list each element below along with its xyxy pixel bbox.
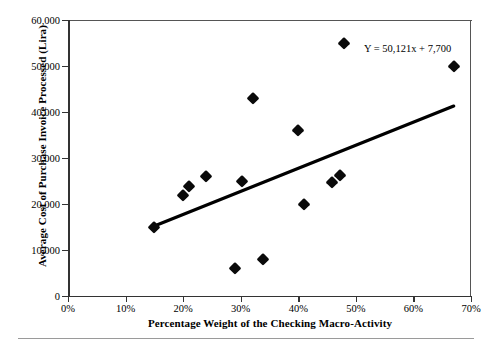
y-axis-tick-label: 50,000	[4, 61, 60, 72]
x-axis-tick	[183, 296, 184, 302]
y-axis-tick	[62, 250, 68, 251]
data-point-marker	[292, 124, 304, 136]
x-axis-tick	[298, 296, 299, 302]
y-axis-line	[68, 20, 70, 297]
y-axis-tick	[62, 158, 68, 159]
y-axis-tick	[62, 66, 68, 67]
x-axis-tick-label: 50%	[334, 303, 378, 314]
y-axis-tick	[62, 204, 68, 205]
x-axis-tick	[126, 296, 127, 302]
data-point-marker	[448, 60, 460, 72]
x-axis-tick-label: 0%	[46, 303, 90, 314]
plot-frame-top-border	[68, 20, 472, 21]
x-axis-tick-label: 70%	[449, 303, 493, 314]
x-axis-tick	[471, 296, 472, 302]
trendline-equation-label: Y = 50,121x + 7,700	[364, 43, 451, 54]
y-axis-tick-label: 20,000	[4, 199, 60, 210]
y-axis-tick-label: 30,000	[4, 153, 60, 164]
y-axis-tick	[62, 112, 68, 113]
x-axis-tick-label: 10%	[104, 303, 148, 314]
data-point-marker	[338, 37, 350, 49]
x-axis-line	[68, 296, 472, 298]
data-point-marker	[229, 262, 241, 274]
data-point-marker	[236, 175, 248, 187]
y-axis-title: Average Cost of Purchase Invoice Process…	[36, 6, 48, 286]
data-point-marker	[247, 92, 259, 104]
plot-frame-right-border	[470, 20, 471, 297]
y-axis-tick-label: 10,000	[4, 245, 60, 256]
data-point-marker	[148, 221, 160, 233]
data-point-marker	[200, 170, 212, 182]
x-axis-tick	[413, 296, 414, 302]
data-point-marker	[257, 253, 269, 265]
y-axis-tick-label: 60,000	[4, 15, 60, 26]
y-axis-tick-label: 0	[4, 291, 60, 302]
x-axis-title: Percentage Weight of the Checking Macro-…	[68, 317, 472, 329]
x-axis-tick-label: 60%	[391, 303, 435, 314]
x-axis-tick	[68, 296, 69, 302]
y-axis-tick	[62, 20, 68, 21]
x-axis-tick-label: 20%	[161, 303, 205, 314]
x-axis-tick	[356, 296, 357, 302]
footer-divider	[18, 338, 474, 339]
y-axis-tick-label: 40,000	[4, 107, 60, 118]
x-axis-tick-label: 40%	[276, 303, 320, 314]
data-point-marker	[298, 198, 310, 210]
x-axis-tick-label: 30%	[219, 303, 263, 314]
x-axis-tick	[241, 296, 242, 302]
scatter-plot-figure: 60,000 50,000 40,000 30,000 20,000 10,00…	[0, 0, 493, 347]
